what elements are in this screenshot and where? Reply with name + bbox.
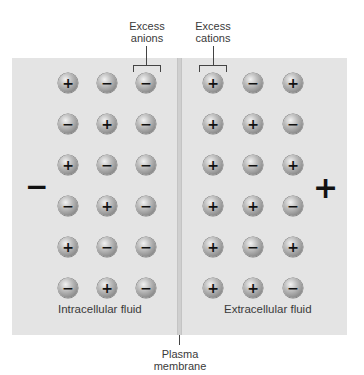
ion-charge: + bbox=[62, 76, 74, 90]
ion: + bbox=[243, 278, 263, 298]
ion: − bbox=[136, 73, 156, 93]
positive-side-sign: + bbox=[313, 170, 338, 205]
ion: − bbox=[136, 114, 156, 134]
ion-charge: + bbox=[62, 158, 74, 172]
ion-charge: + bbox=[207, 76, 219, 90]
membrane-label-line1: Plasma bbox=[150, 348, 210, 360]
ion-charge: + bbox=[207, 158, 219, 172]
ion: + bbox=[203, 73, 223, 93]
ion: − bbox=[97, 155, 117, 175]
ion-charge: + bbox=[101, 281, 113, 295]
ion: − bbox=[283, 114, 303, 134]
ion-charge: − bbox=[62, 199, 74, 213]
ion-charge: + bbox=[287, 158, 299, 172]
ion: − bbox=[243, 155, 263, 175]
ion: + bbox=[203, 155, 223, 175]
membrane-label-line2: membrane bbox=[150, 360, 210, 372]
excess-anions-line2: anions bbox=[112, 32, 182, 44]
negative-side-sign: − bbox=[25, 170, 48, 203]
ion: − bbox=[58, 196, 78, 216]
ion-charge: + bbox=[207, 117, 219, 131]
ion-charge: − bbox=[287, 281, 299, 295]
ion-charge: − bbox=[140, 158, 152, 172]
excess-anions-line1: Excess bbox=[112, 20, 182, 32]
ion: − bbox=[136, 278, 156, 298]
anions-bracket bbox=[133, 65, 161, 72]
ion-charge: + bbox=[247, 281, 259, 295]
ion-charge: − bbox=[140, 76, 152, 90]
membrane-pointer-line bbox=[179, 335, 180, 345]
ion-charge: + bbox=[207, 281, 219, 295]
ion: − bbox=[58, 278, 78, 298]
ion: + bbox=[203, 114, 223, 134]
ion-charge: − bbox=[287, 117, 299, 131]
ion-charge: − bbox=[101, 76, 113, 90]
ion: − bbox=[136, 196, 156, 216]
ion-charge: + bbox=[101, 199, 113, 213]
ion: + bbox=[203, 278, 223, 298]
ion-charge: + bbox=[287, 76, 299, 90]
ion-charge: − bbox=[62, 281, 74, 295]
ion-charge: − bbox=[62, 117, 74, 131]
ion: + bbox=[283, 155, 303, 175]
ion: − bbox=[136, 237, 156, 257]
ion-charge: − bbox=[140, 199, 152, 213]
ion: + bbox=[283, 237, 303, 257]
ion: + bbox=[283, 73, 303, 93]
ion: − bbox=[136, 155, 156, 175]
ion-charge: + bbox=[62, 240, 74, 254]
ion-charge: − bbox=[247, 158, 259, 172]
ion: + bbox=[97, 114, 117, 134]
intracellular-fluid-label: Intracellular fluid bbox=[58, 303, 142, 315]
plasma-membrane-label: Plasma membrane bbox=[150, 348, 210, 372]
excess-anions-label: Excess anions bbox=[112, 20, 182, 44]
excess-cations-line1: Excess bbox=[178, 20, 248, 32]
ion: + bbox=[97, 278, 117, 298]
ion-charge: + bbox=[101, 117, 113, 131]
ion: − bbox=[97, 237, 117, 257]
ion-charge: − bbox=[287, 199, 299, 213]
anions-bracket-stem bbox=[146, 46, 147, 65]
cations-bracket bbox=[199, 65, 227, 72]
ion-charge: − bbox=[140, 117, 152, 131]
ion: + bbox=[58, 73, 78, 93]
ion: + bbox=[243, 196, 263, 216]
cations-bracket-stem bbox=[213, 46, 214, 65]
ion: − bbox=[283, 196, 303, 216]
plasma-membrane bbox=[177, 58, 182, 335]
ion: + bbox=[58, 155, 78, 175]
ion-charge: − bbox=[140, 281, 152, 295]
ion-charge: + bbox=[207, 240, 219, 254]
ion-charge: + bbox=[287, 240, 299, 254]
ion: − bbox=[243, 237, 263, 257]
extracellular-fluid-label: Extracellular fluid bbox=[224, 303, 312, 315]
ion-charge: − bbox=[247, 76, 259, 90]
ion-charge: + bbox=[247, 199, 259, 213]
ion: + bbox=[58, 237, 78, 257]
ion-charge: + bbox=[207, 199, 219, 213]
ion: + bbox=[203, 237, 223, 257]
ion: − bbox=[58, 114, 78, 134]
ion: − bbox=[283, 278, 303, 298]
ion-charge: + bbox=[247, 117, 259, 131]
ion: − bbox=[243, 73, 263, 93]
ion: + bbox=[243, 114, 263, 134]
ion-charge: − bbox=[101, 158, 113, 172]
ion-charge: − bbox=[140, 240, 152, 254]
ion-charge: − bbox=[247, 240, 259, 254]
ion: − bbox=[97, 73, 117, 93]
excess-cations-line2: cations bbox=[178, 32, 248, 44]
excess-cations-label: Excess cations bbox=[178, 20, 248, 44]
ion: + bbox=[97, 196, 117, 216]
ion-charge: − bbox=[101, 240, 113, 254]
ion: + bbox=[203, 196, 223, 216]
